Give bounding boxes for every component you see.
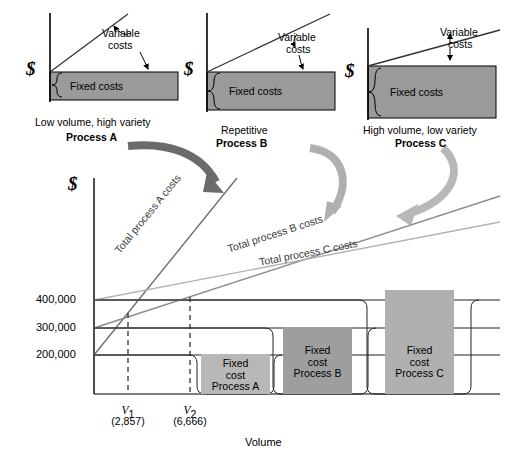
figure-root: $ Variable costs Fixed costs Low volume,… [0,0,518,465]
panel-c-graphic [368,28,500,120]
fixed-cost-label-b-line3: Process B [283,368,352,380]
panel-c-variable-label-line2: costs [448,38,473,50]
panel-c-process: Process C [395,137,446,149]
x-axis-label-volume: Volume [245,436,282,448]
panel-a-dollar-symbol: $ [26,58,36,80]
panel-b-graphic [207,13,335,112]
fixed-cost-label-a-line1: Fixed [201,358,270,370]
callout-arrow-b [310,148,343,222]
line-process-c [94,222,500,300]
fixed-cost-label-c: Fixed cost Process C [385,345,454,380]
panel-b-caption: Repetitive [221,124,268,136]
crossover-markers [128,297,190,394]
crossover-v1-value: (2,857) [100,415,156,427]
fixed-cost-label-a: Fixed cost Process A [201,358,270,393]
panel-a-variable-label-line1: Variable [102,27,140,39]
panel-c-variable-label-line1: Variable [440,26,478,38]
y-tick-400000: 400,000 [36,293,76,305]
panel-b-process: Process B [216,137,267,149]
panel-c-fixed-label: Fixed costs [390,86,443,98]
y-tick-200000: 200,000 [36,348,76,360]
panel-a-process: Process A [66,131,117,143]
panel-b-fixed-label: Fixed costs [229,85,282,97]
fixed-cost-label-a-line3: Process A [201,381,270,393]
panel-a-variable-label-line2: costs [108,39,133,51]
panel-c-dollar-symbol: $ [345,60,355,82]
fixed-cost-label-c-line3: Process C [385,368,454,380]
fixed-cost-label-b-line1: Fixed [283,345,352,357]
fixed-cost-label-c-line1: Fixed [385,345,454,357]
crossover-v2-value: (6,666) [162,415,218,427]
panel-a-caption: Low volume, high variety [35,116,151,128]
panel-c-caption: High volume, low variety [363,124,477,136]
main-chart-dollar-symbol: $ [68,173,78,195]
panel-b-variable-label-line1: Variable [278,31,316,43]
panel-b-variable-label-line2: costs [286,43,311,55]
fixed-cost-label-b: Fixed cost Process B [283,345,352,380]
panel-b-dollar-symbol: $ [184,58,194,80]
y-tick-300000: 300,000 [36,321,76,333]
panel-a-fixed-label: Fixed costs [70,80,123,92]
